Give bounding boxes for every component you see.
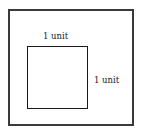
inner-square-right-label: 1 unit — [94, 76, 119, 85]
inner-square-top-label: 1 unit — [43, 32, 68, 41]
inner-square — [27, 46, 88, 109]
